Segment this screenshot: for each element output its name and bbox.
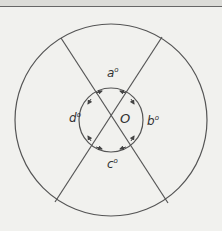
inner-angle-circle xyxy=(79,88,143,152)
angle-label-c: co xyxy=(107,157,118,171)
angle-label-b: bo xyxy=(147,114,159,128)
circle-diagram xyxy=(0,0,222,231)
center-label: O xyxy=(120,111,130,126)
angle-label-d: do xyxy=(69,111,81,125)
angle-label-a: ao xyxy=(107,66,119,80)
outer-circle xyxy=(15,24,207,216)
